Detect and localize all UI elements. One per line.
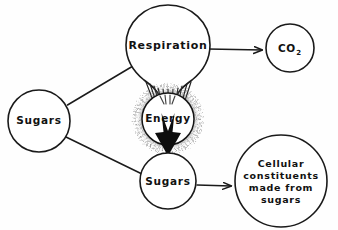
node-cellular-line-4: sugars bbox=[261, 194, 301, 205]
node-cellular-line-2: constituents bbox=[243, 170, 318, 181]
respiration-diagram: Respiration bbox=[0, 0, 338, 230]
node-sugars-left-label: Sugars bbox=[16, 114, 61, 126]
diagram-canvas: Respiration bbox=[0, 0, 338, 230]
edge-sugars-bottom-to-cellular bbox=[197, 185, 231, 186]
node-energy-label: Energy bbox=[145, 112, 191, 124]
node-sugars-bottom-label: Sugars bbox=[145, 175, 190, 187]
node-co2-label: CO bbox=[278, 42, 296, 54]
node-co2: CO 2 bbox=[266, 24, 314, 72]
edge-sugars-left-to-respiration bbox=[68, 66, 134, 105]
node-sugars-bottom: Sugars bbox=[140, 153, 196, 209]
node-cellular-constituents: Cellular constituents made from sugars bbox=[235, 135, 327, 227]
node-sugars-left: Sugars bbox=[8, 90, 70, 152]
node-co2-subscript: 2 bbox=[296, 49, 302, 57]
edge-sugars-left-to-sugars-bottom bbox=[66, 137, 142, 174]
edge-respiration-to-co2 bbox=[208, 49, 262, 50]
node-cellular-line-3: made from bbox=[249, 182, 313, 193]
node-respiration-label: Respiration bbox=[128, 39, 207, 52]
node-cellular-line-1: Cellular bbox=[258, 158, 305, 169]
